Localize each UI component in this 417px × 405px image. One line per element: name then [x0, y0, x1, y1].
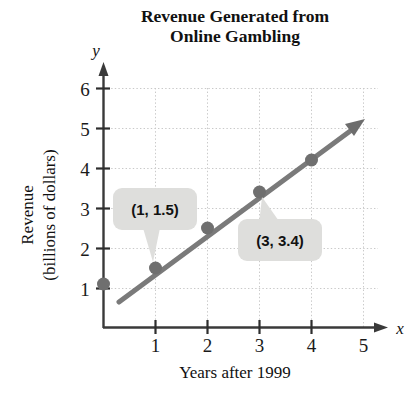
y-tick-label-6: 6 [80, 79, 90, 100]
data-point-3 [253, 186, 266, 199]
y-tick-label-5: 5 [80, 119, 90, 140]
y-tick-label-1: 1 [80, 279, 90, 300]
y-tick-label-4: 4 [80, 159, 90, 180]
y-tick-label-2: 2 [80, 239, 90, 260]
data-point-2 [201, 222, 214, 235]
data-point-1 [149, 262, 162, 275]
x-tick-label-1: 1 [151, 335, 161, 356]
x-axis-letter: x [395, 319, 404, 338]
x-axis-title: Years after 1999 [179, 363, 291, 382]
callout-1-label: (1, 1.5) [131, 201, 179, 218]
x-tick-label-5: 5 [359, 335, 369, 356]
y-axis-title-line2: (billions of dollars) [40, 149, 59, 280]
chart-figure: Revenue Generated from Online Gambling [0, 0, 417, 405]
y-axis-title-line1: Revenue [18, 185, 37, 244]
data-point-0 [97, 278, 110, 291]
data-point-4 [305, 154, 318, 167]
x-tick-label-2: 2 [203, 335, 213, 356]
y-tick-label-3: 3 [80, 199, 90, 220]
chart-title-line1: Revenue Generated from [141, 6, 330, 26]
x-tick-label-4: 4 [307, 335, 317, 356]
x-tick-label-3: 3 [255, 335, 265, 356]
callout-2-label: (3, 3.4) [256, 232, 304, 249]
chart-title-line2: Online Gambling [170, 26, 300, 46]
y-axis-letter: y [90, 41, 100, 60]
